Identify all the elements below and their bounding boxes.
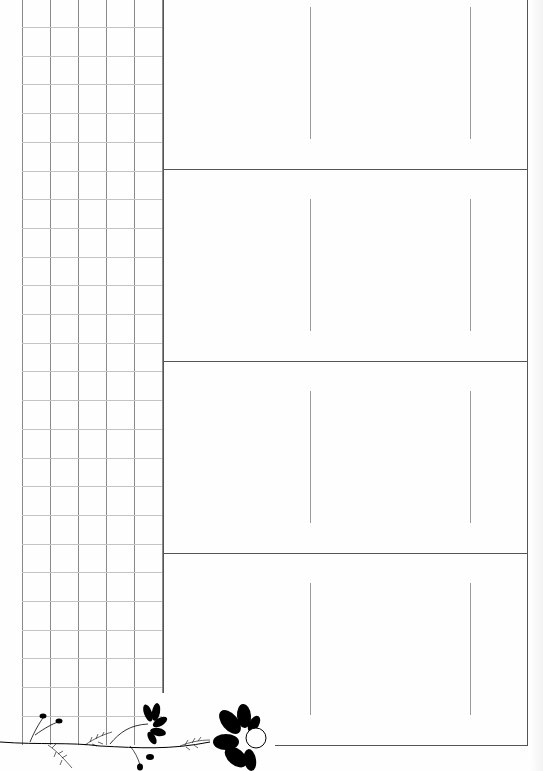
page-edge-shadow: [529, 0, 543, 771]
grid-horizontal-line: [22, 601, 162, 602]
grid-horizontal-line: [22, 400, 162, 401]
panel-inner-line: [470, 583, 471, 715]
grid-horizontal-line: [22, 343, 162, 344]
panel-inner-line: [310, 391, 311, 523]
panel-inner-line: [470, 199, 471, 331]
grid-horizontal-line: [22, 199, 162, 200]
grid-horizontal-line: [22, 572, 162, 573]
grid-vertical-line: [106, 0, 107, 745]
grid-horizontal-line: [22, 371, 162, 372]
grid-horizontal-line: [22, 56, 162, 57]
grid-vertical-line: [134, 0, 135, 745]
grid-horizontal-line: [22, 544, 162, 545]
grid-vertical-line: [50, 0, 51, 745]
panel-left-border: [163, 0, 164, 693]
panel-inner-line: [310, 7, 311, 139]
grid-horizontal-line: [22, 113, 162, 114]
grid-horizontal-line: [22, 257, 162, 258]
panel-bottom-border: [275, 745, 527, 746]
grid-vertical-line: [22, 0, 23, 745]
grid-horizontal-line: [22, 285, 162, 286]
panel-inner-line: [470, 391, 471, 523]
grid-horizontal-line: [22, 142, 162, 143]
grid-horizontal-line: [22, 658, 162, 659]
panel-divider: [163, 361, 527, 362]
panel-divider: [163, 169, 527, 170]
grid-horizontal-line: [22, 228, 162, 229]
grid-horizontal-line: [22, 171, 162, 172]
grid-horizontal-line: [22, 687, 162, 688]
grid-horizontal-line: [22, 429, 162, 430]
panel-inner-line: [470, 7, 471, 139]
grid-horizontal-line: [22, 515, 162, 516]
panel-right-border: [527, 0, 528, 746]
grid-horizontal-line: [22, 486, 162, 487]
grid-horizontal-line: [22, 314, 162, 315]
panel-divider: [163, 553, 527, 554]
grid-horizontal-line: [22, 458, 162, 459]
grid-vertical-line: [78, 0, 79, 745]
grid-horizontal-line: [22, 84, 162, 85]
panel-inner-line: [310, 583, 311, 715]
panel-inner-line: [310, 199, 311, 331]
grid-horizontal-line: [22, 630, 162, 631]
planner-page: [0, 0, 543, 771]
floral-vine-icon: [0, 690, 290, 771]
grid-horizontal-line: [22, 27, 162, 28]
